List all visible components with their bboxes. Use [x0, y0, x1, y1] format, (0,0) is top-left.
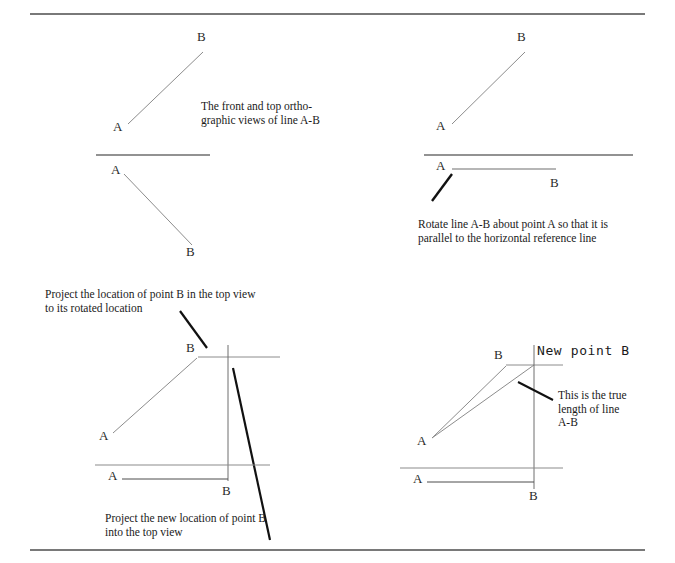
- step1-top-label-a: A: [111, 163, 120, 176]
- step4-original-line: [432, 366, 506, 438]
- step4-caption: This is the true length of line A-B: [558, 389, 653, 430]
- step3-top-label-b: B: [222, 484, 231, 497]
- step4-front-label-b: B: [494, 348, 503, 361]
- step3-top-label-a: A: [108, 469, 117, 482]
- step1-top-view-line: [124, 174, 192, 245]
- step1-caption: The front and top ortho- graphic views o…: [201, 100, 341, 127]
- step3-front-label-a: A: [99, 429, 108, 442]
- step4-new-point-b-label: New point B: [537, 344, 630, 358]
- step2-front-view-line: [452, 52, 525, 124]
- step4-top-label-a: A: [413, 472, 422, 485]
- step1-front-label-a: A: [113, 120, 122, 133]
- figure-drawing-layer: [0, 0, 675, 563]
- step2-front-label-a: A: [436, 119, 445, 132]
- step2-swing-arc-indicator: [432, 174, 452, 201]
- step3-front-label-b: B: [186, 341, 195, 354]
- step1-group: [96, 52, 210, 245]
- step2-front-label-b: B: [517, 30, 526, 43]
- step1-front-label-b: B: [197, 30, 206, 43]
- step4-group: [400, 345, 563, 489]
- step2-group: [424, 52, 633, 201]
- step3-caption-top: Project the location of point B in the t…: [45, 288, 295, 315]
- step4-top-label-b: B: [529, 489, 538, 502]
- step1-front-view-line: [128, 52, 203, 124]
- step2-caption: Rotate line A-B about point A so that it…: [418, 218, 643, 245]
- step4-front-label-a: A: [417, 434, 426, 447]
- step2-top-label-b: B: [550, 176, 559, 189]
- step4-true-length-line: [432, 365, 534, 438]
- step1-top-label-b: B: [186, 245, 195, 258]
- step3-caption-bottom: Project the new location of point B into…: [105, 512, 325, 539]
- figure-page: The front and top ortho- graphic views o…: [0, 0, 675, 563]
- step4-leader-line: [518, 382, 553, 400]
- step3-front-view-line: [113, 358, 197, 433]
- step2-top-label-a: A: [436, 159, 445, 172]
